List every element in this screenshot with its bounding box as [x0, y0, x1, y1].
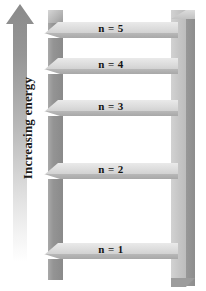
level-label-2: n = 2: [44, 163, 178, 175]
energy-level-diagram: Increasing energy n = 5 n = 4 n =: [0, 0, 206, 291]
left-post: [48, 10, 63, 280]
right-post-side-face: [186, 18, 195, 286]
level-label-4: n = 4: [44, 58, 178, 70]
level-label-1: n = 1: [44, 243, 178, 255]
level-label-3: n = 3: [44, 100, 178, 112]
level-label-5: n = 5: [44, 22, 178, 34]
energy-axis: Increasing energy: [0, 0, 44, 291]
level-ladder: n = 5 n = 4 n = 3 n = 2 n =: [44, 0, 206, 291]
right-post: [171, 10, 186, 280]
energy-axis-label: Increasing energy: [20, 53, 36, 203]
